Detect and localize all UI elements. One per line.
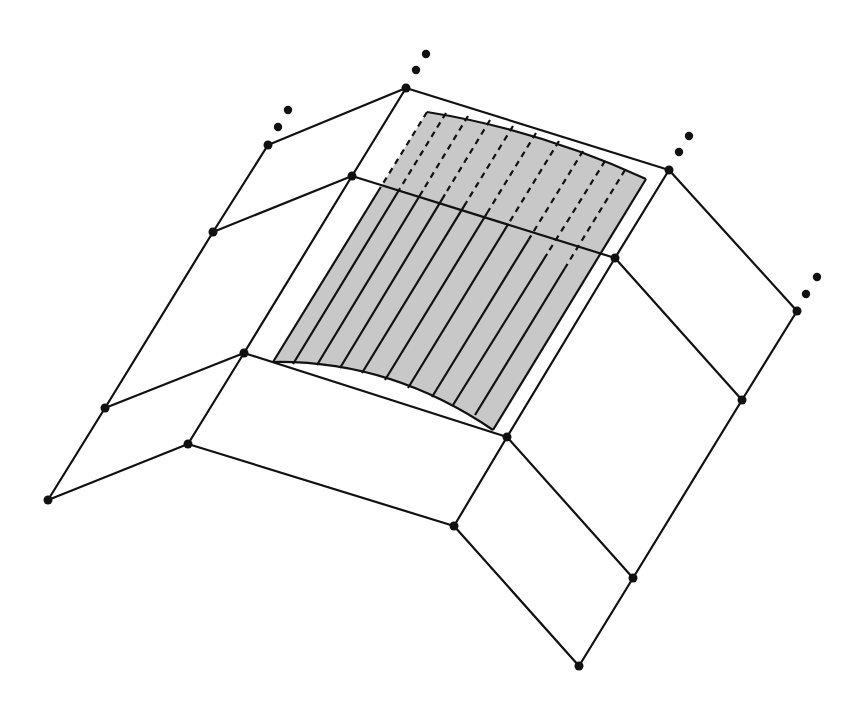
control-point-1-3: [184, 440, 193, 449]
control-point-1-2: [240, 349, 249, 358]
control-point-2-2: [503, 433, 512, 442]
control-point-1-1: [348, 172, 357, 181]
control-point-2-3: [450, 522, 459, 531]
control-point-0-0: [264, 141, 273, 150]
control-point-3-1: [738, 396, 747, 405]
control-point-0-3: [44, 496, 53, 505]
control-mesh-diagram: [0, 0, 862, 706]
control-point-3-2: [629, 574, 638, 583]
control-point-3-0: [793, 307, 802, 316]
control-point-1-0: [402, 84, 411, 93]
control-point-2-1: [611, 254, 620, 263]
control-point-2-0: [665, 166, 674, 175]
control-point-3-3: [575, 662, 584, 671]
control-point-0-1: [209, 228, 218, 237]
control-point-0-2: [101, 404, 110, 413]
